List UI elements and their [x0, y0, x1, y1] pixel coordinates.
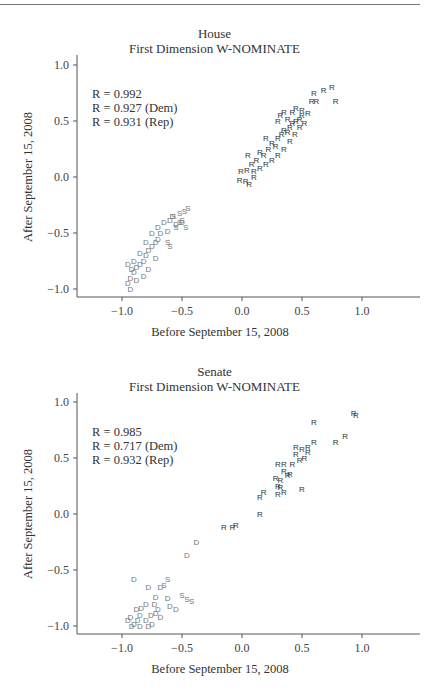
senate-y-tick-label: 0.0: [54, 507, 69, 521]
senate-correlation-annotation: R = 0.717 (Dem): [92, 439, 178, 453]
senate-x-tick-label: 0.5: [295, 641, 310, 655]
data-point: R: [305, 448, 311, 457]
data-point: R: [233, 521, 239, 530]
senate-correlation-annotation: R = 0.932 (Rep): [92, 453, 173, 467]
data-point: R: [257, 510, 263, 519]
data-point: D: [194, 538, 200, 547]
senate-scatter-plot: 1.00.50.0−0.5−1.0−1.0−0.50.00.51.0Before…: [0, 0, 429, 696]
data-point: R: [311, 438, 317, 447]
senate-y-tick-label: −1.0: [47, 619, 69, 633]
data-point: R: [297, 456, 303, 465]
data-point: R: [290, 460, 296, 469]
senate-correlation-annotation: R = 0.985: [92, 425, 142, 439]
data-point: R: [353, 411, 359, 420]
data-point: R: [311, 418, 317, 427]
senate-y-tick-label: 0.5: [54, 451, 69, 465]
data-point: R: [299, 485, 305, 494]
senate-y-tick-label: −0.5: [47, 563, 69, 577]
data-point: R: [275, 490, 281, 499]
data-point: R: [342, 432, 348, 441]
data-point: D: [125, 616, 131, 625]
senate-x-tick-label: 1.0: [355, 641, 370, 655]
data-point: R: [287, 470, 293, 479]
senate-x-tick-label: −1.0: [111, 641, 133, 655]
senate-x-axis-label: Before September 15, 2008: [151, 662, 288, 676]
senate-y-axis-label: After September 15, 2008: [21, 449, 35, 579]
data-point: D: [184, 551, 190, 560]
data-point: S: [189, 597, 194, 606]
data-point: R: [333, 438, 339, 447]
data-point: D: [131, 575, 137, 584]
data-point: D: [137, 622, 143, 631]
senate-y-tick-label: 1.0: [54, 395, 69, 409]
senate-series-R: RRRRRRRRRRRRRRRRRRRRRRRRRRRRRRRR: [221, 409, 359, 532]
data-point: R: [221, 523, 227, 532]
data-point: R: [261, 488, 267, 497]
data-point: R: [281, 488, 287, 497]
data-point: S: [161, 581, 166, 590]
data-point: D: [173, 605, 179, 614]
data-point: D: [146, 583, 152, 592]
senate-x-tick-label: −0.5: [171, 641, 193, 655]
data-point: D: [149, 620, 155, 629]
senate-x-tick-label: 0.0: [235, 641, 250, 655]
data-point: D: [158, 613, 164, 622]
data-point: D: [143, 600, 149, 609]
